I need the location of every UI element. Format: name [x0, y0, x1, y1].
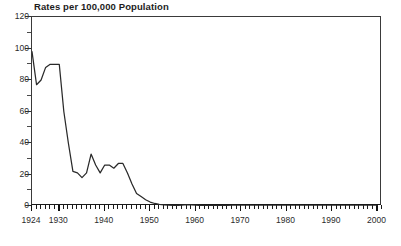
series-line-rate	[32, 52, 377, 206]
x-tick-label: 1990	[322, 216, 341, 225]
x-tick-label: 1950	[140, 216, 159, 225]
x-tick-label: 1960	[185, 216, 204, 225]
x-tick-label: 2000	[367, 216, 386, 225]
x-tick-label: 1970	[231, 216, 250, 225]
x-tick-label: 1930	[49, 216, 68, 225]
clipped-caption	[12, 236, 272, 244]
data-line-svg	[32, 17, 382, 206]
plot-area	[31, 16, 381, 205]
x-tick-label: 1924	[22, 216, 41, 225]
x-tick-label: 1980	[276, 216, 295, 225]
chart-figure: Rates per 100,000 Population 02040608010…	[0, 0, 401, 246]
x-tick-label: 1940	[94, 216, 113, 225]
